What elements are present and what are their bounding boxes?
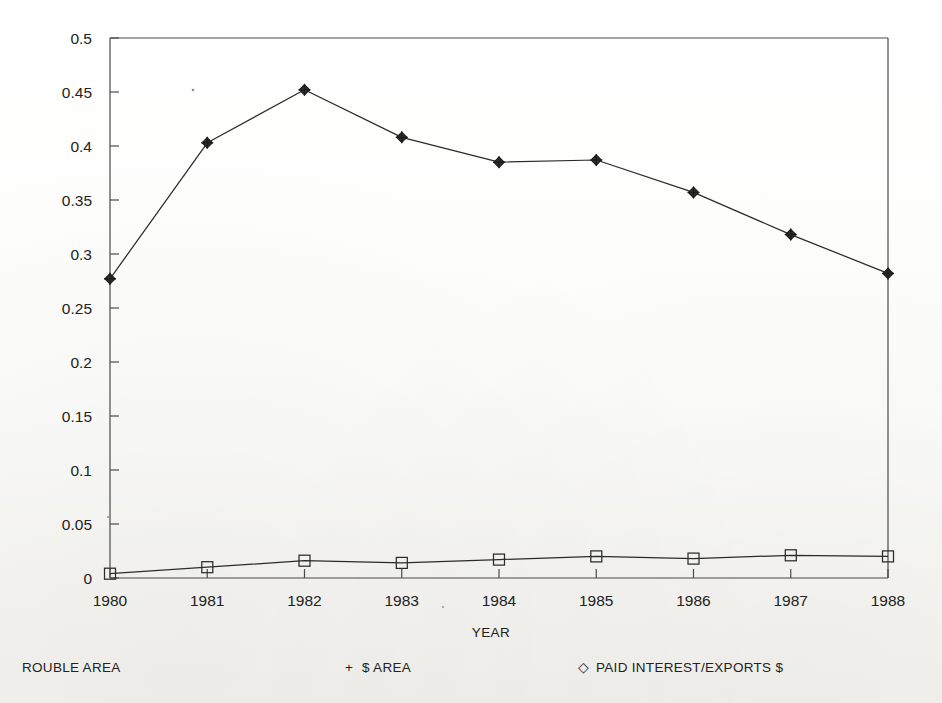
x-tick-label: 1982 [287, 592, 321, 609]
y-tick-label: 0.05 [62, 516, 92, 533]
y-tick-label: 0.4 [70, 138, 92, 155]
x-tick-label: 1980 [93, 592, 128, 609]
data-point-marker [493, 156, 505, 168]
legend-item-dollar-area: $ AREA [362, 660, 411, 675]
x-tick-label: 1984 [482, 592, 517, 609]
x-axis: 198019811982198319841985198619871988 [93, 569, 905, 609]
data-point-marker [201, 137, 213, 149]
y-tick-label: 0.2 [70, 354, 92, 371]
chart-legend: ROUBLE AREA + $ AREA ◇ PAID INTEREST/EXP… [22, 660, 783, 675]
series-line-paid-interest [110, 90, 888, 279]
data-point-marker [785, 229, 797, 241]
x-tick-label: 1981 [190, 592, 224, 609]
y-tick-label: 0.1 [70, 462, 92, 479]
data-point-marker [590, 154, 602, 166]
chart-figure: 00.050.10.150.20.250.30.350.40.450.5 198… [0, 0, 942, 703]
y-tick-label: 0.3 [70, 246, 92, 263]
plot-frame [110, 38, 888, 578]
y-tick-label: 0.15 [62, 408, 92, 425]
data-point-marker [299, 84, 311, 96]
data-point-marker [396, 131, 408, 143]
x-tick-label: 1986 [676, 592, 710, 609]
legend-marker-diamond-icon: ◇ [578, 660, 589, 675]
x-axis-title: YEAR [472, 625, 510, 640]
y-tick-label: 0 [83, 570, 92, 587]
y-tick-label: 0.35 [62, 192, 92, 209]
x-tick-label: 1987 [774, 592, 808, 609]
data-point-marker [688, 186, 700, 198]
legend-item-rouble-area: ROUBLE AREA [22, 660, 121, 675]
line-chart-svg: 00.050.10.150.20.250.30.350.40.450.5 198… [0, 0, 942, 703]
x-tick-label: 1983 [385, 592, 419, 609]
data-point-marker [882, 267, 894, 279]
y-tick-label: 0.45 [62, 84, 92, 101]
scan-specks [107, 89, 444, 608]
y-tick-label: 0.5 [70, 30, 92, 47]
x-tick-label: 1988 [871, 592, 905, 609]
legend-item-paid-interest-exports: PAID INTEREST/EXPORTS $ [596, 660, 783, 675]
legend-marker-plus-icon: + [345, 660, 353, 675]
x-tick-label: 1985 [579, 592, 613, 609]
y-tick-label: 0.25 [62, 300, 92, 317]
data-series-group [104, 84, 894, 579]
data-point-marker [104, 273, 116, 285]
